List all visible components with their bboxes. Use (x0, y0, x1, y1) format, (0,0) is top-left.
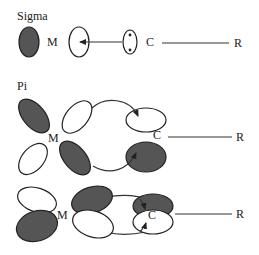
third-r-label: R (236, 207, 244, 221)
electron-dot (129, 49, 132, 52)
pi-r-label: R (236, 130, 244, 144)
pi-section: Pi M C R (13, 79, 244, 180)
pi-metal-lobe-empty-bottom (13, 138, 53, 180)
sigma-r-label: R (234, 36, 242, 50)
sigma-carbon-label: C (146, 35, 154, 49)
pi-title: Pi (17, 79, 28, 93)
third-carbon-label: C (148, 208, 156, 222)
pi-metal-lobe-filled-bottom (54, 136, 97, 181)
third-metal-label: M (57, 208, 68, 222)
third-section: M C R (12, 181, 244, 247)
electron-dot (129, 34, 132, 37)
pi-metal-label: M (48, 131, 59, 145)
pi-carbon-lobe-filled (126, 142, 166, 172)
third-metal-lobe-filled-left (12, 205, 61, 247)
sigma-metal-label: M (47, 35, 58, 49)
sigma-metal-filled-lobe (19, 27, 39, 57)
sigma-title: Sigma (17, 9, 48, 23)
bonding-diagram: Sigma M C R Pi M C R M (0, 0, 259, 255)
sigma-section: Sigma M C R (17, 9, 242, 57)
pi-metal-lobe-empty-top (56, 95, 97, 138)
pi-carbon-label: C (153, 128, 161, 142)
